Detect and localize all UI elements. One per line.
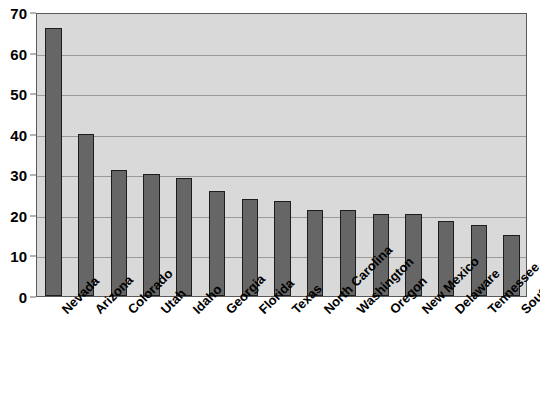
x-axis-tick-label: Idaho [190,306,201,317]
x-axis-tick-label: Colorado [125,306,136,317]
bar[interactable] [176,178,192,296]
plot-area [36,13,527,297]
y-axis-labels: 706050403020100 [0,0,34,401]
y-axis-tick-label: 60 [10,45,27,62]
x-axis-tick-label: Florida [255,306,266,317]
x-axis-tick-label: Texas [288,306,299,317]
x-axis-tick-label: Georgia [223,306,234,317]
y-axis-tick-label: 40 [10,126,27,143]
y-axis-tick-mark [30,94,36,95]
bar-chart: 706050403020100 NevadaArizonaColoradoUta… [0,0,540,401]
x-axis-tick-label: Tennessee [485,306,496,317]
y-axis-tick-label: 10 [10,248,27,265]
y-axis-tick-mark [30,13,36,14]
x-axis-tick-label: South Carolina [517,306,528,317]
x-axis-tick-label: North Carolina [321,306,332,317]
bar[interactable] [78,134,94,296]
x-axis-tick-label: Arizona [92,306,103,317]
y-axis-tick-mark [30,53,36,54]
x-axis-tick-label: Oregon [386,306,397,317]
x-axis-tick-label: Utah [157,306,168,317]
y-axis-tick-label: 30 [10,167,27,184]
chart-title-clipped [0,0,540,5]
x-axis-tick-label: Washington [354,306,365,317]
bar-series [37,14,526,296]
y-axis-tick-mark [30,215,36,216]
x-axis-tick-label: New Mexico [419,306,430,317]
bar[interactable] [45,28,61,296]
y-axis-tick-label: 20 [10,207,27,224]
bar[interactable] [209,191,225,296]
y-axis-tick-mark [30,175,36,176]
y-axis-tick-mark [30,297,36,298]
y-axis-tick-mark [30,134,36,135]
y-axis-tick-label: 0 [19,289,27,306]
y-axis-tick-mark [30,256,36,257]
y-axis-tick-label: 70 [10,5,27,22]
x-axis-tick-label: Nevada [59,306,70,317]
y-axis-tick-label: 50 [10,86,27,103]
x-axis-tick-label: Delaware [452,306,463,317]
